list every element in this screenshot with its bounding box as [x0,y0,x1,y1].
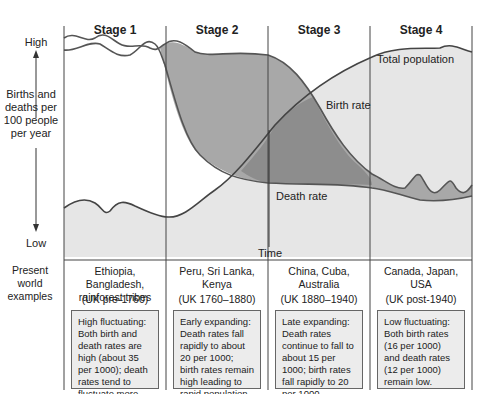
total-population-label: Total population [377,53,454,65]
stage-3-examples: China, Cuba, Australia [270,265,368,291]
stage-4-uk-period: (UK post-1940) [372,293,470,305]
y-axis-low: Low [18,237,54,250]
y-axis-label: Births and deaths per 100 people per yea… [0,88,62,140]
stage-2-examples: Peru, Sri Lanka, Kenya [168,265,266,291]
stage-2-header: Stage 2 [172,23,262,37]
x-axis-label: Time [258,247,282,259]
row-label-examples: Present world examples [2,264,58,303]
y-axis-high: High [18,36,54,49]
death-rate-label: Death rate [276,190,327,202]
arrow-down-icon [33,224,39,232]
stage-1-uk-period: (UK pre-1760) [66,293,164,305]
arrow-up-icon [33,50,39,58]
stage-4-description: Low fluctuating: Both birth rates (16 pe… [377,310,465,389]
stage-4-examples: Canada, Japan, USA [372,265,470,291]
stage-3-header: Stage 3 [274,23,364,37]
stage-3-uk-period: (UK 1880–1940) [270,293,368,305]
stage-1-header: Stage 1 [70,23,160,37]
stage-2-uk-period: (UK 1760–1880) [168,293,266,305]
stage-4-header: Stage 4 [376,23,466,37]
stage-3-description: Late expanding: Death rates continue to … [275,310,363,389]
stage-1-description: High fluctuating: Both birth and death r… [71,310,159,389]
birth-rate-label: Birth rate [326,99,371,111]
stage-2-description: Early expanding: Death rates fall rapidl… [173,310,261,389]
